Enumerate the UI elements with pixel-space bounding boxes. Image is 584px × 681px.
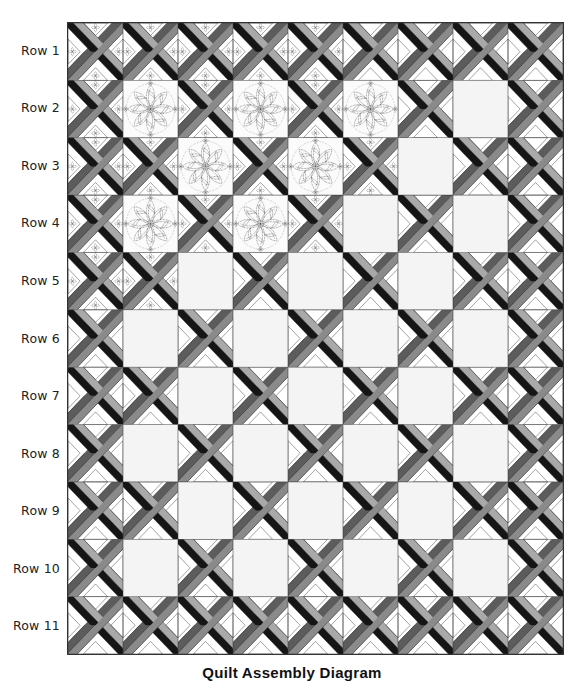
plain-square-block (453, 425, 508, 482)
plain-square-block (123, 310, 178, 367)
plain-square-block (123, 539, 178, 596)
plain-square-block (453, 310, 508, 367)
plain-square-block (233, 539, 288, 596)
plain-square-block (288, 482, 343, 539)
row-label: Row 8 (0, 446, 60, 462)
plain-square-block (453, 539, 508, 596)
plain-square-block (398, 252, 453, 309)
plain-square-block (453, 195, 508, 252)
row-label: Row 5 (0, 273, 60, 289)
plain-square-block (343, 539, 398, 596)
plain-square-block (398, 138, 453, 195)
quilted-feather-block (123, 80, 178, 137)
row-label: Row 3 (0, 158, 60, 174)
plain-square-block (398, 482, 453, 539)
row-label: Row 9 (0, 503, 60, 519)
quilted-feather-block (178, 138, 233, 195)
plain-square-block (178, 252, 233, 309)
plain-square-block (453, 80, 508, 137)
diagram-caption: Quilt Assembly Diagram (0, 664, 584, 681)
row-label: Row 11 (0, 618, 60, 634)
plain-square-block (343, 195, 398, 252)
plain-square-block (343, 425, 398, 482)
quilted-feather-block (288, 138, 343, 195)
plain-square-block (343, 310, 398, 367)
row-label: Row 6 (0, 331, 60, 347)
plain-square-block (233, 310, 288, 367)
quilted-feather-block (343, 80, 398, 137)
row-label: Row 1 (0, 43, 60, 59)
plain-square-block (233, 425, 288, 482)
plain-square-block (178, 482, 233, 539)
row-label: Row 7 (0, 388, 60, 404)
plain-square-block (178, 367, 233, 424)
quilt-blocks (68, 23, 563, 654)
plain-square-block (123, 425, 178, 482)
quilted-feather-block (233, 195, 288, 252)
plain-square-block (288, 252, 343, 309)
quilted-feather-block (123, 195, 178, 252)
row-label: Row 10 (0, 561, 60, 577)
quilted-feather-block (233, 80, 288, 137)
quilt-assembly-grid (67, 22, 564, 655)
plain-square-block (288, 367, 343, 424)
row-label: Row 2 (0, 100, 60, 116)
row-label: Row 4 (0, 215, 60, 231)
plain-square-block (398, 367, 453, 424)
